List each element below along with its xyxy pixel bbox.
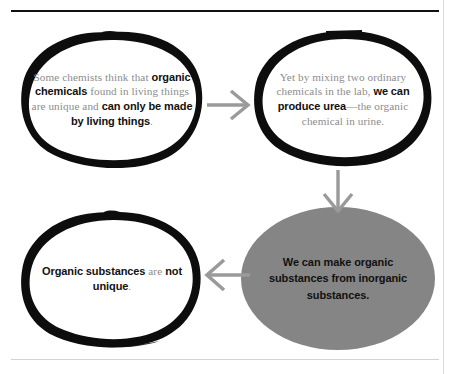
segment-1: are xyxy=(145,265,165,277)
node-claim-text: We can make organic substances from inor… xyxy=(241,254,435,303)
node-evidence-text: Yet by mixing two ordinary chemicals in … xyxy=(250,70,436,128)
segment-0: Some chemists think that xyxy=(33,71,151,83)
arrow-down-icon xyxy=(316,168,360,216)
node-premise-text: Some chemists think that organic chemica… xyxy=(16,70,208,128)
node-claim: We can make organic substances from inor… xyxy=(241,207,435,350)
segment-0: Organic substances xyxy=(42,265,145,277)
bottom-rule xyxy=(11,359,439,360)
arrow-right-icon xyxy=(203,84,255,126)
node-evidence: Yet by mixing two ordinary chemicals in … xyxy=(250,28,436,170)
top-rule xyxy=(11,10,439,12)
diagram-page: Some chemists think that organic chemica… xyxy=(0,0,455,374)
right-margin-rule xyxy=(443,0,444,374)
arrow-left-icon xyxy=(198,254,254,296)
node-premise: Some chemists think that organic chemica… xyxy=(16,28,208,170)
segment-4: . xyxy=(150,115,153,127)
node-conclusion-text: Organic substances are not unique. xyxy=(16,264,208,293)
node-conclusion: Organic substances are not unique. xyxy=(16,208,208,350)
segment-3: . xyxy=(128,280,131,292)
segment-0: We can make organic substances from inor… xyxy=(269,256,407,301)
